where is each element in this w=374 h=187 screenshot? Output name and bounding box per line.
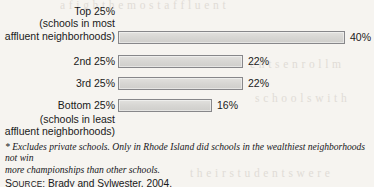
bar-label-3rd-25: 3rd 25% — [0, 77, 115, 90]
footnote-line-1: * Excludes private schools. Only in Rhod… — [5, 141, 369, 164]
bar-track-3rd-25 — [118, 77, 243, 90]
bar-3rd-25 — [118, 77, 243, 90]
bar-track-bottom-25 — [118, 99, 212, 112]
bar-sublabel-group-bottom-25: (schools in least affluent neighborhoods… — [0, 113, 115, 138]
bar-2nd-25 — [118, 55, 243, 68]
source-line: SOURCE: Brady and Sylwester, 2004. — [5, 177, 369, 187]
table-row: Bottom 25% 16% — [0, 99, 374, 113]
figure-notes: * Excludes private schools. Only in Rhod… — [5, 141, 369, 187]
bar-bottom-25 — [118, 99, 212, 112]
bar-value-bottom-25: 16% — [217, 99, 238, 112]
bar-value-2nd-25: 22% — [248, 55, 269, 68]
bar-label-bottom-25: Bottom 25% — [0, 99, 115, 112]
bar-label-bottom-25-line2: (schools in least — [0, 113, 115, 125]
bar-label-top-25-line1: Top 25% — [0, 5, 115, 17]
source-label-first-letter: S — [5, 177, 12, 187]
bar-label-2nd-25: 2nd 25% — [0, 55, 115, 68]
bar-top-25 — [118, 31, 345, 44]
table-row: 40% — [0, 31, 374, 45]
bar-value-top-25: 40% — [350, 31, 371, 44]
figure-container: a f i g h t h e m o s t a f f l u e n t … — [0, 0, 374, 187]
source-citation-text: : Brady and Sylwester, 2004. — [42, 178, 172, 187]
bar-track-top-25 — [118, 31, 345, 44]
bar-track-2nd-25 — [118, 55, 243, 68]
table-row: 2nd 25% 22% — [0, 55, 374, 69]
table-row: 3rd 25% 22% — [0, 77, 374, 91]
bar-label-bottom-25-line3: affluent neighborhoods) — [0, 125, 115, 137]
footnote-line-2: more championships than other schools. — [5, 164, 369, 175]
source-label-smallcaps: OURCE — [12, 180, 42, 187]
bar-label-top-25-line2: (schools in most — [0, 17, 115, 29]
bar-value-3rd-25: 22% — [248, 77, 269, 90]
